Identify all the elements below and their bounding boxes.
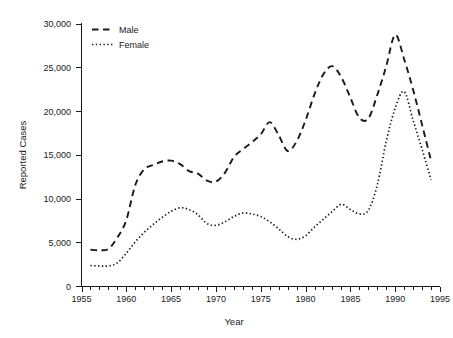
legend-label-female: Female [119,40,149,50]
y-tick-label: 10,000 [43,194,71,204]
x-tick-label: 1990 [385,294,405,304]
y-tick-label: 5,000 [48,238,71,248]
y-tick-label: 25,000 [43,63,71,73]
y-axis-title: Reported Cases [17,120,28,189]
series-line-male [90,35,431,251]
y-tick-label: 0 [66,282,71,292]
y-tick-label: 20,000 [43,107,71,117]
y-axis-tick-labels: 0 5,000 10,000 15,000 20,000 25,000 30,0… [43,19,71,291]
x-axis-title: Year [224,316,243,327]
x-tick-label: 1970 [206,294,226,304]
legend-label-male: Male [119,25,139,35]
x-tick-label: 1965 [161,294,181,304]
chart-legend: Male Female [92,25,149,50]
series-line-female [90,91,431,266]
x-tick-label: 1980 [296,294,316,304]
y-tick-label: 15,000 [43,150,71,160]
line-chart: 0 5,000 10,000 15,000 20,000 25,000 30,0… [0,0,453,338]
y-axis-ticks [76,24,82,286]
x-axis-ticks [83,287,441,293]
x-tick-label: 1955 [71,294,91,304]
chart-figure: 0 5,000 10,000 15,000 20,000 25,000 30,0… [0,0,453,338]
x-tick-label: 1995 [430,294,450,304]
x-tick-label: 1960 [116,294,136,304]
y-tick-label: 30,000 [43,19,71,29]
x-tick-label: 1975 [251,294,271,304]
x-axis-tick-labels: 1955 1960 1965 1970 1975 1980 1985 1990 … [71,294,450,304]
x-tick-label: 1985 [340,294,360,304]
